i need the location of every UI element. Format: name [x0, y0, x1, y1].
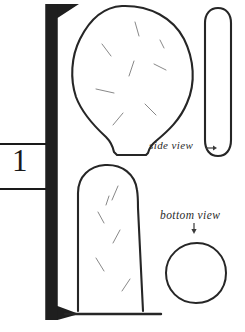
view-side	[205, 8, 231, 156]
scale-bar-wedge	[46, 4, 80, 320]
scale-bar-number: 1	[12, 145, 28, 176]
artifact-drawing-svg	[0, 0, 245, 332]
view-front-upper	[72, 6, 193, 155]
view-front-lower	[65, 165, 161, 314]
bottom-view-arrow-icon	[191, 223, 196, 234]
side-view-label: side view	[149, 140, 193, 151]
figure-canvas: side view bottom view 1	[0, 0, 245, 332]
view-bottom	[166, 243, 226, 303]
bottom-view-label: bottom view	[160, 210, 220, 222]
